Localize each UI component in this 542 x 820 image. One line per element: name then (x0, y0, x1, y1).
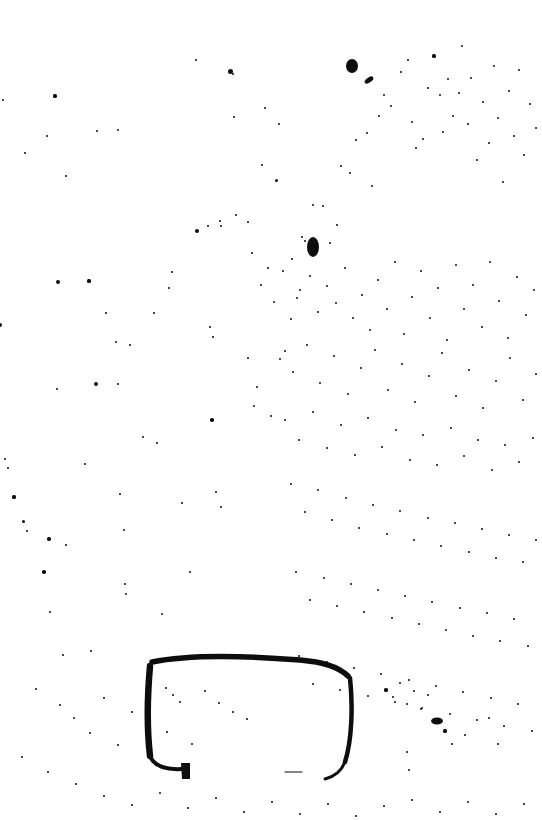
annotation-right-edge (345, 678, 352, 762)
annotation-hook-terminal (181, 763, 190, 779)
scanned-page: Scanned page with handwritten rectangle … (0, 0, 542, 820)
annotation-left-edge (148, 666, 150, 756)
ink-blot-group (307, 59, 443, 725)
annotation-top-edge (152, 657, 348, 677)
annotation-bottom-right-tail (325, 762, 345, 779)
blot-center-figure (307, 237, 319, 257)
annotation-bottom-left-curve (150, 756, 182, 769)
blot-top-dash (363, 75, 374, 85)
ink-annotation-layer (0, 0, 542, 820)
hand-drawn-rounded-rectangle (148, 657, 352, 780)
blot-lower-right (431, 718, 443, 725)
blot-top-center (346, 59, 358, 73)
